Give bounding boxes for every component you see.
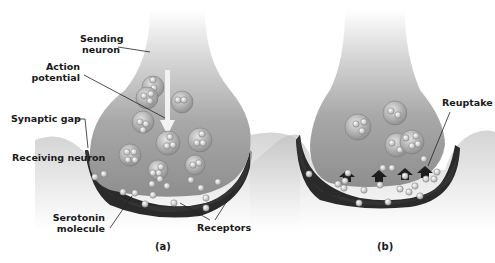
label-action-potential-line1: Action bbox=[30, 61, 80, 72]
label-receiving-neuron: Receiving neuron bbox=[12, 152, 105, 163]
label-sending-neuron-line2: neuron bbox=[80, 44, 120, 55]
label-serotonin-molecule: Serotonin molecule bbox=[50, 212, 105, 234]
label-synaptic-gap: Synaptic gap bbox=[11, 113, 81, 124]
panel-b-art bbox=[250, 10, 495, 230]
caption-panel-a: (a) bbox=[155, 241, 171, 252]
label-receptors: Receptors bbox=[197, 222, 251, 233]
caption-panel-b: (b) bbox=[377, 241, 393, 252]
label-reuptake: Reuptake bbox=[442, 97, 493, 108]
label-serotonin-line1: Serotonin bbox=[50, 212, 105, 223]
label-action-potential: Action potential bbox=[30, 61, 80, 83]
label-sending-neuron-line1: Sending bbox=[80, 33, 120, 44]
label-sending-neuron: Sending neuron bbox=[80, 33, 120, 55]
label-action-potential-line2: potential bbox=[30, 72, 80, 83]
synapse-diagram: Sending neuron Action potential Synaptic… bbox=[0, 0, 495, 263]
label-serotonin-line2: molecule bbox=[50, 223, 105, 234]
